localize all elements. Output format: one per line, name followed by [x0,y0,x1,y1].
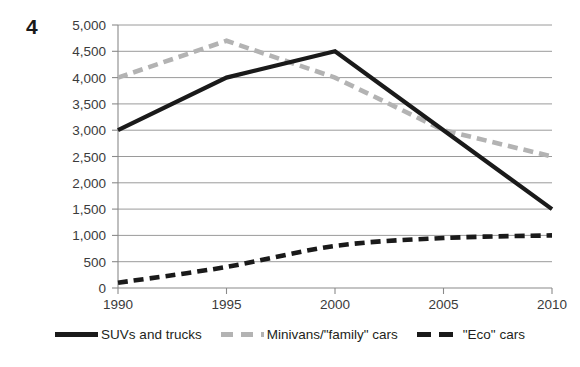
gridlines-group [118,25,552,262]
x-axis-tick-labels: 1990 1995 2000 2005 2010 [103,297,567,312]
ytick-label: 5,000 [72,18,106,33]
dashed-gray-line-swatch-icon [221,332,264,337]
ytick-label: 1,500 [72,202,106,217]
legend-item-suvs-and-trucks[interactable]: SUVs and trucks [55,327,202,342]
ytick-label: 2,000 [72,176,106,191]
line-chart: 5,000 4,500 4,000 3,500 3,000 2,500 2,00… [0,0,580,327]
ytick-label: 1,000 [72,228,106,243]
ytick-label: 0 [98,281,106,296]
series-lines-group [118,41,552,283]
ytick-label: 500 [83,255,106,270]
ytick-label: 4,500 [72,44,106,59]
ytick-label: 4,000 [72,71,106,86]
legend-item-minivans-family-cars[interactable]: Minivans/"family" cars [221,327,398,342]
x-axis-tick-marks [118,288,552,294]
chart-legend: SUVs and trucks Minivans/"family" cars "… [0,327,580,342]
y-axis-tick-marks [112,25,118,288]
xtick-label: 2000 [320,297,350,312]
y-axis-tick-labels: 5,000 4,500 4,000 3,500 3,000 2,500 2,00… [72,18,106,296]
xtick-label: 2005 [428,297,458,312]
figure-container: 4 [0,0,580,367]
legend-label: Minivans/"family" cars [267,327,398,342]
xtick-label: 2010 [537,297,567,312]
ytick-label: 2,500 [72,150,106,165]
ytick-label: 3,500 [72,97,106,112]
ytick-label: 3,000 [72,123,106,138]
legend-label: "Eco" cars [463,327,525,342]
legend-item-eco-cars[interactable]: "Eco" cars [417,327,525,342]
xtick-label: 1990 [103,297,133,312]
solid-black-line-swatch-icon [55,332,98,337]
xtick-label: 1995 [211,297,241,312]
series-line-eco-cars [118,235,552,282]
dashed-black-line-swatch-icon [417,332,460,337]
legend-label: SUVs and trucks [101,327,202,342]
